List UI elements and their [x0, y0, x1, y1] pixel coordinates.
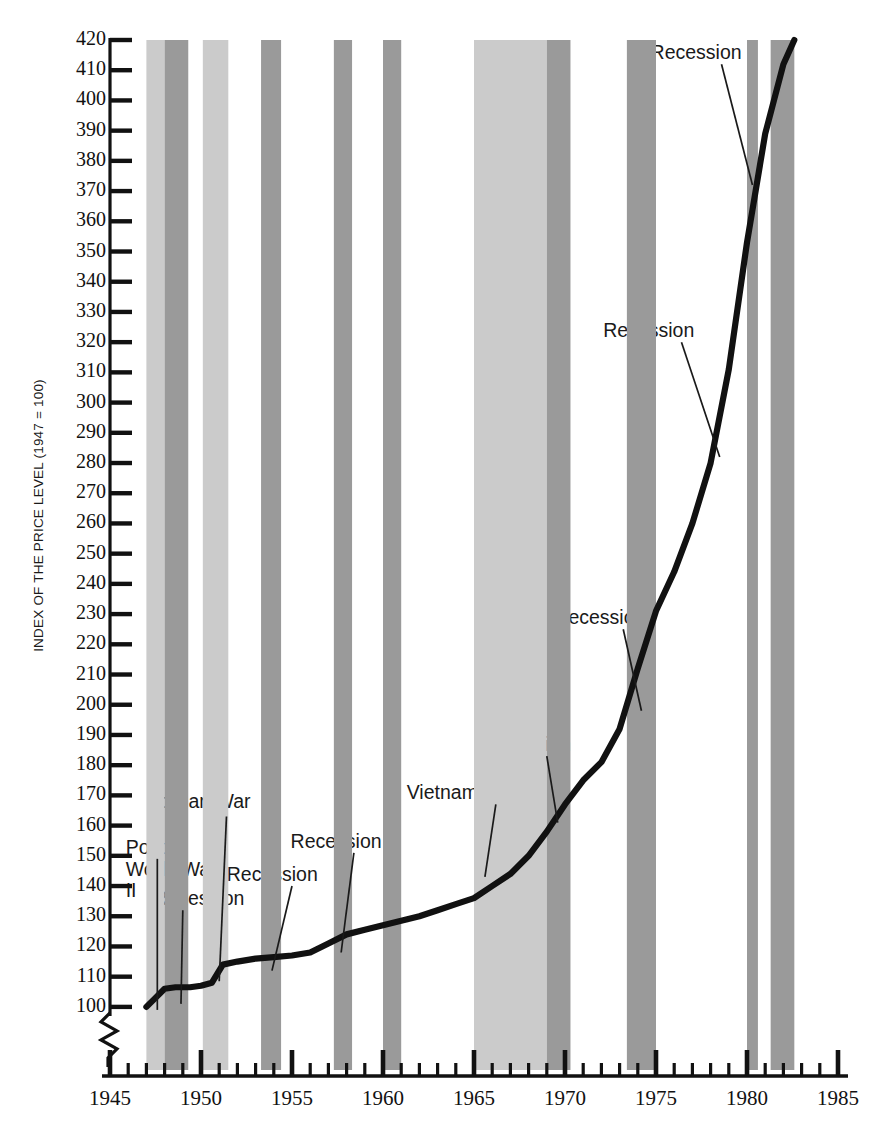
chart-plot-area [0, 0, 892, 1146]
band-recession [547, 40, 571, 1070]
band-war [474, 40, 547, 1070]
band-recession [383, 40, 401, 1070]
band-war [203, 40, 228, 1070]
band-recession [627, 40, 656, 1070]
band-war [146, 40, 164, 1070]
band-recession [165, 40, 189, 1070]
band-recession [334, 40, 352, 1070]
band-recession [771, 40, 795, 1070]
band-recession [261, 40, 281, 1070]
price-level-line [146, 40, 794, 1007]
annotation-leader-line [681, 342, 719, 457]
chart-figure: INDEX OF THE PRICE LEVEL (1947 = 100) 10… [0, 0, 892, 1146]
